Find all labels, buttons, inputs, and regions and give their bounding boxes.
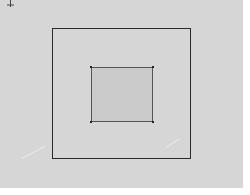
drawing-canvas[interactable]: [0, 0, 243, 188]
inner-square-corner-handle[interactable]: [152, 66, 154, 68]
move-crosshair-icon[interactable]: [7, 0, 14, 7]
inner-square-corner-handle[interactable]: [152, 121, 154, 123]
scan-artifact: [22, 146, 45, 159]
inner-square[interactable]: [91, 67, 153, 122]
inner-square-corner-handle[interactable]: [90, 66, 92, 68]
inner-square-corner-handle[interactable]: [90, 121, 92, 123]
